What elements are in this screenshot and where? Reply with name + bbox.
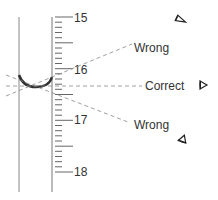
eye-level-icon [200,80,208,90]
scale-ticks [55,17,73,172]
scale-label-15: 15 [74,11,88,25]
eye-below-icon [177,134,189,144]
eye-above-icon [175,15,187,25]
label-wrong-below: Wrong [134,118,169,132]
scale-label-18: 18 [74,165,88,179]
meniscus-curve [19,75,52,87]
meniscus-diagram: 15 16 17 18 Wrong Correct Wrong [0,0,218,200]
sightline-above [6,44,132,96]
scale-label-17: 17 [74,113,88,127]
label-wrong-above: Wrong [134,41,169,55]
label-correct: Correct [145,79,185,93]
